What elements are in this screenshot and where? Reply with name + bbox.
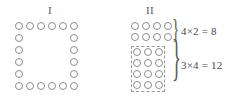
circle-token: [26, 22, 34, 30]
circle-token: [144, 48, 152, 56]
circle-token: [164, 33, 172, 41]
circle-token: [26, 82, 34, 90]
panel-heading-two: II: [138, 4, 162, 16]
equation-bottom: 3×4 = 12: [181, 59, 223, 71]
circle-token: [37, 82, 45, 90]
panel-heading-one: I: [38, 4, 62, 16]
circle-token: [15, 70, 23, 78]
circle-group-bottom-3x4-dashed: [131, 46, 165, 92]
circle-token: [153, 33, 161, 41]
circle-token: [15, 34, 23, 42]
circle-token: [133, 81, 141, 89]
circle-token: [155, 70, 163, 78]
circle-token: [70, 34, 78, 42]
circle-token: [133, 59, 141, 67]
circle-token: [155, 81, 163, 89]
circle-token: [70, 58, 78, 66]
circle-token: [155, 48, 163, 56]
circle-token: [15, 58, 23, 66]
circle-token: [131, 33, 139, 41]
circle-token: [37, 22, 45, 30]
circle-token: [70, 82, 78, 90]
circle-token: [131, 22, 139, 30]
circle-token: [142, 22, 150, 30]
circle-token: [133, 48, 141, 56]
circle-group-top-4x2: [131, 22, 175, 45]
circle-token: [70, 22, 78, 30]
brace-bottom: }: [172, 33, 181, 84]
figure-two-rearranged: [131, 22, 177, 92]
circle-token: [59, 82, 67, 90]
circle-token: [15, 22, 23, 30]
circle-token: [155, 59, 163, 67]
circle-token: [15, 82, 23, 90]
circle-token: [15, 46, 23, 54]
circle-token: [142, 33, 150, 41]
figure-canvas: I II } } 4×2 = 8 3×4 = 12: [0, 0, 235, 99]
circle-token: [153, 22, 161, 30]
circle-token: [70, 70, 78, 78]
equation-top: 4×2 = 8: [181, 25, 217, 37]
circle-token: [48, 22, 56, 30]
figure-one-hollow-square: [15, 22, 81, 90]
circle-token: [133, 70, 141, 78]
circle-token: [144, 70, 152, 78]
circle-token: [48, 82, 56, 90]
circle-token: [59, 22, 67, 30]
circle-token: [164, 22, 172, 30]
circle-token: [144, 81, 152, 89]
circle-token: [144, 59, 152, 67]
circle-token: [70, 46, 78, 54]
